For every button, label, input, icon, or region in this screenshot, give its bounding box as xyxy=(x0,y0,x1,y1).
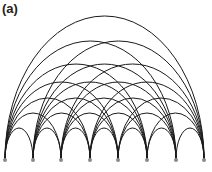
node xyxy=(145,158,149,162)
edge-arc xyxy=(5,64,147,159)
node xyxy=(174,158,178,162)
nodes xyxy=(3,158,206,162)
arc-diagram xyxy=(0,0,212,172)
node xyxy=(59,158,63,162)
edge-arc xyxy=(33,82,147,159)
node xyxy=(202,158,206,162)
node xyxy=(3,158,7,162)
node xyxy=(116,158,120,162)
node xyxy=(31,158,35,162)
edges xyxy=(5,16,204,159)
node xyxy=(88,158,92,162)
edge-arc xyxy=(61,64,204,159)
edge-arc xyxy=(33,64,176,159)
